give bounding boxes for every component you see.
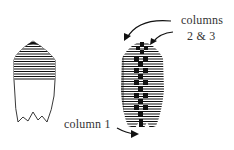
left-shell-stripes <box>10 38 60 82</box>
left-shell <box>10 38 60 122</box>
arrow-to-column-2 <box>127 21 171 38</box>
label-columns-2-and-3: 2 & 3 <box>187 30 215 42</box>
label-column-1: column 1 <box>64 118 111 130</box>
right-shell <box>118 38 168 132</box>
arrowhead-column-1 <box>131 130 139 138</box>
label-columns: columns <box>181 14 223 26</box>
